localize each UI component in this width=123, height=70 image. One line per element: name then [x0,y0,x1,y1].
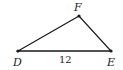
vertex-d-label: D [12,56,22,69]
triangle-def [18,16,111,51]
vertex-e-label: E [106,56,115,69]
side-de-length-label: 12 [59,54,72,65]
vertex-f-label: F [73,1,82,14]
vertex-d-point [16,49,19,52]
vertex-f-point [77,14,80,17]
triangle-diagram: F D E 12 [0,0,123,70]
vertex-e-point [109,49,112,52]
